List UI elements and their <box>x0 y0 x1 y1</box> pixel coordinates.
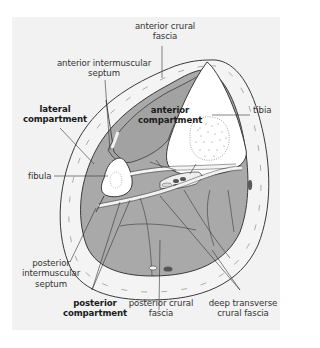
label-line: lateral <box>20 104 90 114</box>
label-line: posterior <box>60 298 130 308</box>
great-saphenous-vein <box>248 180 252 190</box>
label-line: compartment <box>138 115 202 125</box>
label-line: crural fascia <box>206 308 280 318</box>
label-deep-transverse-crural-fascia: deep transverse crural fascia <box>206 298 280 319</box>
fibula-marrow <box>110 172 122 188</box>
label-line: compartment <box>60 308 130 318</box>
label-anterior-compartment: anterior compartment <box>138 105 202 126</box>
label-fibula: fibula <box>28 171 51 181</box>
label-line: compartment <box>20 114 90 124</box>
label-lateral-compartment: lateral compartment <box>20 104 90 125</box>
label-line: septum <box>20 279 82 289</box>
small-saphenous-vein <box>149 266 157 270</box>
label-line: posterior <box>20 258 82 268</box>
label-line: septum <box>54 68 154 78</box>
label-line: fibula <box>28 171 51 181</box>
label-line: anterior crural <box>124 21 206 31</box>
label-line: fascia <box>124 31 206 41</box>
sural-nerve <box>164 266 173 271</box>
label-line: intermuscular <box>20 268 82 278</box>
label-line: anterior <box>138 105 202 115</box>
label-line: fascia <box>124 308 198 318</box>
label-tibia: tibia <box>253 105 271 115</box>
label-line: anterior intermuscular <box>54 58 154 68</box>
label-line: tibia <box>253 105 271 115</box>
label-posterior-compartment: posterior compartment <box>60 298 130 319</box>
label-line: deep transverse <box>206 298 280 308</box>
label-posterior-intermuscular-septum: posterior intermuscular septum <box>20 258 82 289</box>
label-line: posterior crural <box>124 298 198 308</box>
label-anterior-crural-fascia: anterior crural fascia <box>124 21 206 42</box>
label-posterior-crural-fascia: posterior crural fascia <box>124 298 198 319</box>
label-anterior-intermuscular-septum: anterior intermuscular septum <box>54 58 154 79</box>
